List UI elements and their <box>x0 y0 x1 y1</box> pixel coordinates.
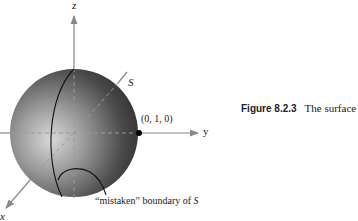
x-axis <box>6 173 36 208</box>
boundary-label-text: “mistaken” boundary of <box>95 195 194 206</box>
caption-text: The surface <box>305 102 357 114</box>
caption-number: Figure 8.2.3 <box>241 103 297 114</box>
z-axis-label: z <box>72 0 76 11</box>
figure-caption: Figure 8.2.3The surface <box>241 102 356 114</box>
x-axis-label: x <box>0 210 5 221</box>
boundary-label-var: S <box>194 195 199 206</box>
point-marker <box>136 130 142 136</box>
y-axis-label: y <box>203 125 209 137</box>
figure: z y x S (0, 1, 0) “mistaken” boundary of… <box>0 0 358 221</box>
boundary-label: “mistaken” boundary of S <box>95 195 199 206</box>
point-label: (0, 1, 0) <box>141 113 173 124</box>
s-pointer <box>118 72 127 83</box>
surface-label: S <box>128 76 134 88</box>
